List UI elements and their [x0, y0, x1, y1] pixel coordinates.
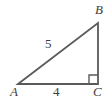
side-length-hypotenuse: 5 [45, 37, 52, 50]
side-length-base: 4 [53, 85, 60, 98]
vertex-label-b: B [95, 3, 103, 16]
triangle-outline [18, 23, 98, 84]
right-triangle-figure: A B C 5 4 [0, 0, 112, 103]
vertex-label-c: C [93, 85, 102, 98]
vertex-label-a: A [10, 85, 18, 98]
right-angle-marker-icon [89, 75, 98, 84]
